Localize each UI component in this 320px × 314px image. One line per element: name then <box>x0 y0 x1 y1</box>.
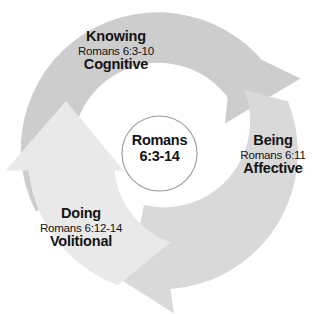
stage-title-knowing: Knowing <box>49 29 183 44</box>
arrow-segment-being <box>95 90 298 314</box>
stage-label-knowing: Knowing Romans 6:3-10 Cognitive <box>49 29 183 72</box>
stage-title-being: Being <box>227 133 319 148</box>
stage-label-doing: Doing Romans 6:12-14 Volitional <box>14 206 148 249</box>
stage-title-doing: Doing <box>14 206 148 221</box>
stage-label-being: Being Romans 6:11 Affective <box>227 133 319 176</box>
cycle-diagram: Knowing Romans 6:3-10 Cognitive Being Ro… <box>0 0 320 314</box>
center-label-line-1: Romans <box>122 133 197 149</box>
stage-reference-being: Romans 6:11 <box>227 149 319 161</box>
stage-domain-being: Affective <box>227 161 319 176</box>
center-circle-label: Romans 6:3-14 <box>122 133 197 165</box>
stage-reference-knowing: Romans 6:3-10 <box>49 45 183 57</box>
stage-reference-doing: Romans 6:12-14 <box>14 222 148 234</box>
stage-domain-knowing: Cognitive <box>49 57 183 72</box>
center-label-line-2: 6:3-14 <box>122 149 197 165</box>
stage-domain-doing: Volitional <box>14 234 148 249</box>
